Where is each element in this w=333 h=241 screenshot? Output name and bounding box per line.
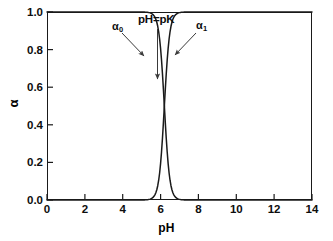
- alpha0-subscript: 0: [119, 25, 123, 34]
- phpk-label: pH=pK: [138, 14, 174, 26]
- x-tick-12: 12: [259, 204, 289, 216]
- alpha1-subscript: 1: [203, 24, 207, 33]
- y-tick-0-4: 0.4: [9, 120, 43, 132]
- chart-figure: 1.0 0.8 0.6 0.4 0.2 0.0 0 2 4 6 8 10 12 …: [0, 0, 333, 241]
- x-tick-2: 2: [70, 204, 100, 216]
- y-tick-1-0: 1.0: [9, 7, 43, 19]
- y-axis-title: α: [6, 93, 21, 115]
- alpha1-symbol: α: [196, 19, 203, 31]
- x-tick-14: 14: [297, 204, 327, 216]
- curve-alpha1: [47, 12, 312, 200]
- alpha0-label: α0: [112, 21, 123, 32]
- x-tick-4: 4: [108, 204, 138, 216]
- y-tick-0-2: 0.2: [9, 157, 43, 169]
- y-tick-0-8: 0.8: [9, 45, 43, 57]
- x-axis-title: pH: [0, 221, 333, 235]
- x-axis-tick-labels: 0 2 4 6 8 10 12 14: [0, 204, 333, 222]
- alpha1-label: α1: [196, 20, 207, 31]
- curve-alpha0: [47, 12, 312, 200]
- x-tick-0: 0: [32, 204, 62, 216]
- axis-ticks: [47, 12, 312, 200]
- x-tick-6: 6: [146, 204, 176, 216]
- alpha0-leader-line: [122, 33, 144, 56]
- x-tick-8: 8: [183, 204, 213, 216]
- alpha0-symbol: α: [112, 20, 119, 32]
- x-tick-10: 10: [221, 204, 251, 216]
- alpha1-leader-line: [175, 33, 196, 55]
